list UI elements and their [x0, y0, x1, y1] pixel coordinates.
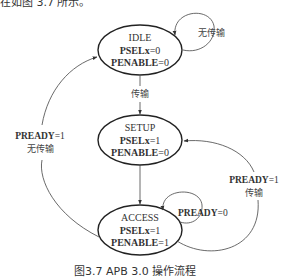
state-setup-name: SETUP — [125, 122, 156, 133]
transition-idle-to-setup: 传输 — [131, 76, 149, 114]
state-idle-name: IDLE — [129, 32, 152, 43]
state-idle-signal-1: PSELx=0 — [120, 45, 161, 56]
state-setup-signal-1: PSELx=1 — [120, 135, 161, 146]
state-access-signal-2: PENABLE=1 — [111, 237, 169, 248]
state-setup: SETUP PSELx=1 PENABLE=0 — [98, 115, 182, 165]
transition-access-to-idle-condition: PREADY=1 — [15, 131, 65, 141]
state-setup-signal-2: PENABLE=0 — [111, 147, 169, 158]
state-access-name: ACCESS — [121, 212, 159, 223]
transition-access-to-idle: PREADY=1 无传输 — [15, 57, 99, 237]
transition-access-to-setup: PREADY=1 传输 — [177, 141, 279, 251]
state-access-signal-1: PSELx=1 — [120, 225, 161, 236]
transition-idle-self-label: 无传输 — [198, 27, 225, 38]
transition-idle-to-setup-label: 传输 — [131, 88, 149, 99]
figure-caption: 图3.7 APB 3.0 操作流程 — [74, 262, 196, 278]
state-idle: IDLE PSELx=0 PENABLE=0 — [98, 25, 182, 75]
transition-access-self: PREADY=0 — [163, 192, 228, 223]
transition-idle-self: 无传输 — [175, 13, 225, 51]
transition-access-to-setup-label: 传输 — [245, 187, 263, 198]
transition-access-self-label: PREADY=0 — [178, 208, 228, 218]
state-access: ACCESS PSELx=1 PENABLE=1 — [98, 205, 182, 255]
transition-access-to-idle-label: 无传输 — [27, 143, 54, 154]
state-idle-signal-2: PENABLE=0 — [111, 57, 169, 68]
transition-access-to-setup-condition: PREADY=1 — [229, 175, 279, 185]
